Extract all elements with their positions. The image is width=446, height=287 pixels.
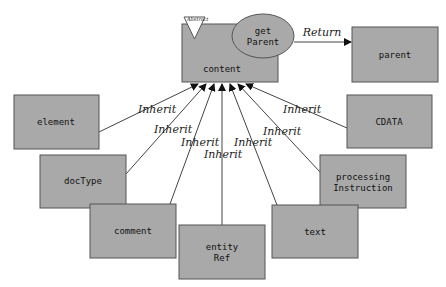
inherit-label-doctype: Inherit [153,123,193,136]
node-parent[interactable]: parent [352,27,438,82]
get-parent-label-line2: Parent [247,37,280,47]
inheritance-diagram: Return content Abstract get Parent paren… [0,0,446,287]
entity-ref-label-line1: entity [206,242,239,252]
content-label: content [203,64,241,74]
node-doctype[interactable]: docType [40,155,126,208]
entity-ref-label-line2: Ref [214,253,230,263]
inherit-label-processing: Inherit [262,125,302,138]
node-entity-ref[interactable]: entity Ref [179,225,265,279]
inherit-label-element: Inherit [137,103,177,116]
node-comment[interactable]: comment [90,204,176,258]
inherit-labels: Inherit Inherit Inherit Inherit Inherit … [137,103,322,161]
node-element[interactable]: element [14,95,99,149]
element-label: element [37,117,75,127]
get-parent-label-line1: get [255,26,271,36]
comment-label: comment [114,226,152,236]
inherit-label-entityref: Inherit [203,148,243,161]
node-text[interactable]: text [272,205,358,258]
doctype-label: docType [64,176,102,186]
node-cdata[interactable]: CDATA [347,95,432,148]
parent-label: parent [379,50,412,60]
abstract-label: Abstract [186,16,210,22]
return-label: Return [302,26,342,39]
text-label: text [304,227,326,237]
inherit-label-cdata: Inherit [282,103,322,116]
processing-instruction-label-line2: Instruction [333,183,393,193]
processing-instruction-label-line1: processing [336,172,390,182]
node-get-parent[interactable]: get Parent [232,14,294,58]
cdata-label: CDATA [375,117,403,127]
node-processing-instruction[interactable]: processing Instruction [320,155,406,208]
